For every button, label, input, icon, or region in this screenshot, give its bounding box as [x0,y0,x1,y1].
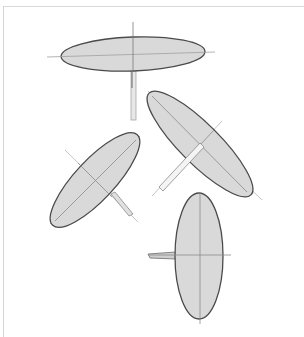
ellipse-left-tilted [38,121,152,239]
ellipse-bottom-vertical [148,193,231,324]
ellipse-sketch [0,0,304,337]
ellipse-shape [175,193,223,319]
stick-left [111,192,133,216]
stick-bottom [148,252,176,259]
ellipse-top-horizontal [47,22,215,120]
ellipse-right-tilted [135,79,265,209]
